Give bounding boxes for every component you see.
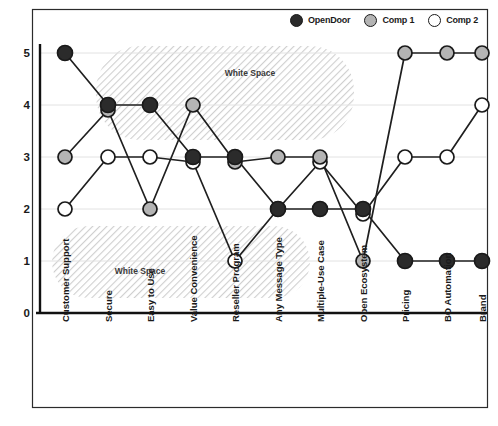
x-tick-customer-support: Customer Support [60,238,71,322]
chart-container: OpenDoor Comp 1 Comp 2 White Space White… [0,0,498,426]
y-tick-5: 5 [24,47,31,59]
point-comp2-customer-support[interactable] [58,202,72,216]
point-comp1-bo-automation[interactable] [440,46,454,60]
x-tick-bo-automation: BO Automation [442,252,453,322]
x-tick-multiple-use-case: Multiple-Use Case [315,240,326,322]
y-tick-0: 0 [24,307,30,319]
point-opendoor-any-message-type[interactable] [271,202,286,217]
point-opendoor-customer-support[interactable] [58,46,73,61]
point-comp1-multiple-use-case[interactable] [313,150,327,164]
point-comp1-easy-to-use[interactable] [143,202,157,216]
point-opendoor-multiple-use-case[interactable] [313,202,328,217]
point-comp2-pricing[interactable] [398,150,412,164]
x-tick-brand: Brand [477,294,488,322]
point-opendoor-value-convenience[interactable] [186,150,201,165]
whitespace-label-upper: White Space [225,68,276,78]
point-opendoor-secure[interactable] [101,98,116,113]
point-comp1-value-convenience[interactable] [186,98,200,112]
whitespace-region-upper: White Space [96,46,354,140]
point-comp1-customer-support[interactable] [58,150,72,164]
point-comp2-brand[interactable] [475,98,489,112]
point-comp2-secure[interactable] [101,150,115,164]
x-tick-value-convenience: Value Convenience [188,235,199,322]
x-tick-open-ecosystem: Open Ecosystem [358,245,369,322]
point-comp1-pricing[interactable] [398,46,412,60]
y-tick-2: 2 [24,203,30,215]
point-opendoor-open-ecosystem[interactable] [356,202,371,217]
x-tick-easy-to-use: Easy to Use [145,268,156,322]
x-tick-secure: Secure [103,290,114,322]
point-comp1-any-message-type[interactable] [271,150,285,164]
x-tick-any-message-type: Any Message Type [273,237,284,322]
point-opendoor-easy-to-use[interactable] [143,98,158,113]
y-tick-1: 1 [24,255,31,267]
x-tick-reseller-program: Reseller Program [230,243,241,322]
y-axis-ticks: 5 4 3 2 1 0 [24,47,31,319]
point-comp2-easy-to-use[interactable] [143,150,157,164]
point-opendoor-reseller-program[interactable] [228,150,243,165]
y-tick-3: 3 [24,151,30,163]
point-opendoor-pricing[interactable] [398,254,413,269]
point-opendoor-brand[interactable] [475,254,490,269]
point-comp1-brand[interactable] [475,46,489,60]
x-tick-pricing: Pricing [400,290,411,322]
whitespace-label-lower: White Space [115,266,166,276]
point-comp2-bo-automation[interactable] [440,150,454,164]
y-tick-4: 4 [24,99,31,111]
whitespace-region-lower: White Space [52,226,310,298]
chart-plot-area: White Space White Space 5 4 3 2 1 0 [0,0,498,426]
